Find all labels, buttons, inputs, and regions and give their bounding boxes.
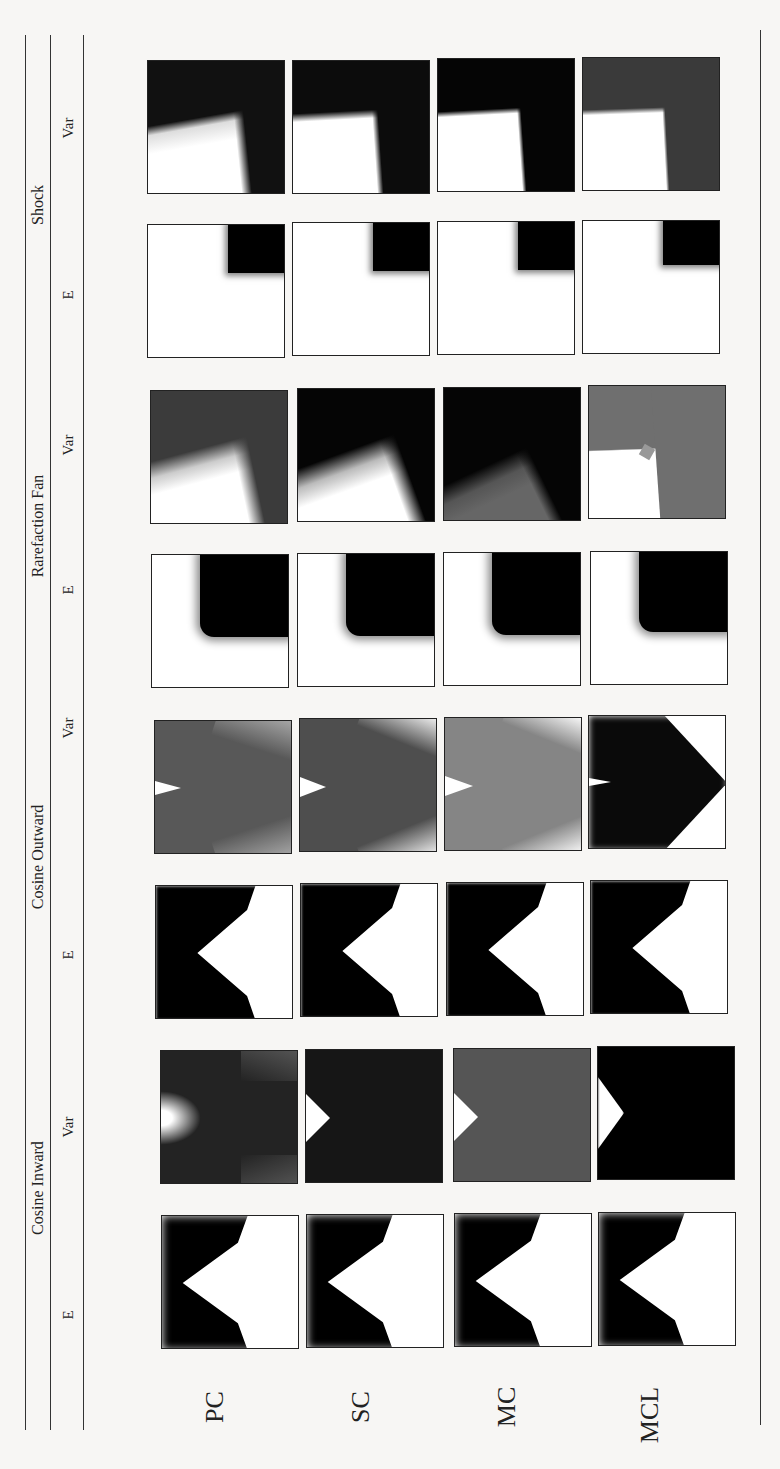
thumb-cosine-inward-e-pc [161,1215,299,1349]
thumb-shock-var-pc [147,60,285,194]
thumb-cosine-inward-var-sc [305,1049,443,1183]
thumb-cosine-inward-var-mc [453,1048,591,1182]
thumb-shock-var-mcl [582,57,720,191]
thumb-cosine-inward-e-sc [306,1214,444,1348]
thumb-rarefaction-e-sc [297,553,435,687]
thumb-cosine-inward-var-mcl [597,1046,735,1180]
thumb-shock-var-mc [437,58,575,192]
sub-label-rarefaction-e: E [58,570,78,610]
sub-label-cosine-outward-e: E [58,935,78,975]
thumb-cosine-outward-var-mc [444,717,582,851]
thumb-shock-e-mcl [582,220,720,354]
row-label-pc: PC [198,1362,232,1452]
thumb-shock-e-sc [292,222,430,356]
group-header-rule [50,35,51,1430]
sub-label-cosine-outward-var: Var [58,708,78,748]
thumb-rarefaction-e-mcl [590,551,728,685]
table-top-rule [25,35,26,1430]
row-label-mc: MC [490,1362,524,1452]
sub-header-rule [83,35,84,1430]
sub-label-cosine-inward-e: E [58,1295,78,1335]
table-bottom-rule [760,30,761,1425]
thumb-rarefaction-var-mc [443,387,581,521]
thumb-rarefaction-e-pc [151,554,289,688]
group-label-shock: Shock [28,105,48,305]
group-label-cosine-outward: Cosine Outward [28,757,48,957]
thumb-cosine-outward-e-sc [300,883,438,1017]
thumb-cosine-outward-var-mcl [588,715,726,849]
thumb-rarefaction-var-pc [150,390,288,524]
thumb-cosine-outward-e-mcl [590,880,728,1014]
sub-label-cosine-inward-var: Var [58,1107,78,1147]
row-label-mcl: MCL [633,1370,667,1460]
thumb-cosine-outward-var-sc [299,718,437,852]
thumb-rarefaction-var-mcl [588,385,726,519]
thumb-rarefaction-e-mc [443,552,581,686]
thumb-shock-e-pc [147,224,285,358]
group-label-cosine-inward: Cosine Inward [28,1088,48,1288]
row-label-sc: SC [344,1362,378,1452]
sub-label-shock-var: Var [58,108,78,148]
sub-label-shock-e: E [58,275,78,315]
thumb-cosine-outward-var-pc [154,720,292,854]
thumb-cosine-outward-e-pc [155,885,293,1019]
thumb-shock-e-mc [437,221,575,355]
thumb-rarefaction-var-sc [297,388,435,522]
sub-label-rarefaction-var: Var [58,425,78,465]
thumb-cosine-inward-var-pc [160,1050,298,1184]
group-label-rarefaction-fan: Rarefaction Fan [28,426,48,626]
thumb-cosine-outward-e-mc [446,882,584,1016]
thumb-shock-var-sc [292,60,430,194]
thumb-cosine-inward-e-mc [454,1213,592,1347]
thumb-cosine-inward-e-mcl [598,1212,736,1346]
